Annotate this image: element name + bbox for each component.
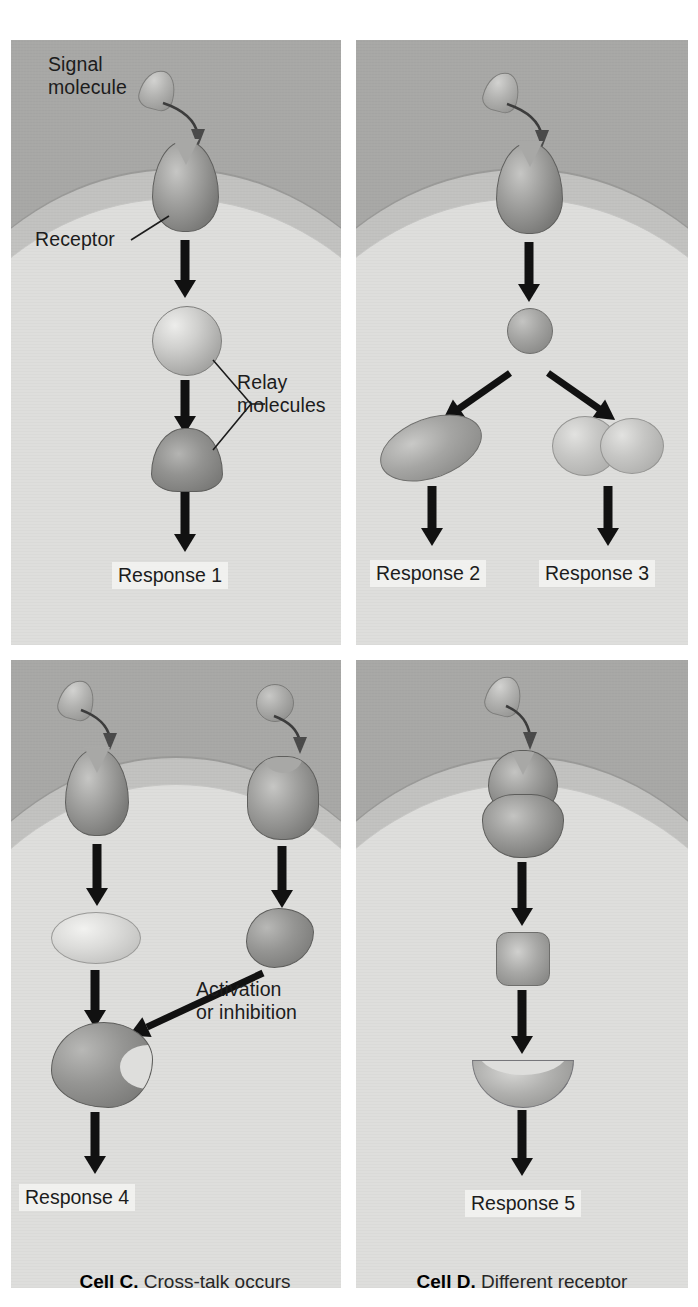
receptor-leader-line xyxy=(129,210,175,246)
panel-cell-c: Activation or inhibition Response 4 Cell… xyxy=(11,660,341,1288)
panel-a-caption: Cell A. Pathway leads to a single respon… xyxy=(35,616,317,645)
pathway-arrow-1 xyxy=(517,242,541,302)
panel-d-caption: Cell D. Different receptor leads to a di… xyxy=(364,1246,680,1288)
panel-cell-a: Signal molecule Receptor Relay molecules xyxy=(11,40,341,645)
receptor-hourglass-icon xyxy=(482,750,562,856)
panel-b-caption-bold: Cell B. xyxy=(409,641,468,646)
panel-a-caption-bold: Cell A. xyxy=(82,641,140,646)
crescent-inner-cut xyxy=(479,1060,567,1075)
response-label-3: Response 3 xyxy=(539,560,655,587)
label-relay-molecules: Relay molecules xyxy=(237,371,326,417)
panel-c-caption: Cell C. Cross-talk occurs between two pa… xyxy=(39,1246,331,1288)
relay-molecule-light-ellipse xyxy=(51,912,141,964)
response-label-1: Response 1 xyxy=(112,562,228,589)
pathway-arrow-3 xyxy=(510,1110,534,1176)
peanut-lobe-right xyxy=(600,418,664,474)
receptor-lower-lobe xyxy=(482,794,564,858)
receptor-right-icon xyxy=(247,756,319,840)
relay-molecule-kidney-bean xyxy=(51,1022,153,1108)
pathway-arrow-left xyxy=(420,486,444,546)
label-signal-molecule: Signal molecule xyxy=(48,53,127,99)
pathway-arrow-1 xyxy=(173,240,197,298)
response-label-2: Response 2 xyxy=(370,560,486,587)
panel-b-caption: Cell B. Pathway branches, leading to two… xyxy=(370,616,674,645)
response-label-4: Response 4 xyxy=(19,1184,135,1211)
panel-cell-b: Response 2 Response 3 Cell B. Pathway br… xyxy=(356,40,688,645)
pathway-arrow-2 xyxy=(510,990,534,1054)
pathway-arrow-left-1 xyxy=(85,844,109,906)
panel-cell-d: Response 5 Cell D. Different receptor le… xyxy=(356,660,688,1288)
panel-c-caption-bold: Cell C. xyxy=(79,1271,138,1289)
figure-grid: Signal molecule Receptor Relay molecules xyxy=(0,0,698,1307)
panel-d-caption-bold: Cell D. xyxy=(417,1271,476,1289)
bean-notch xyxy=(120,1045,153,1089)
pathway-arrow-3 xyxy=(173,492,197,552)
pathway-arrow-2 xyxy=(173,380,197,434)
receptor-u-notch xyxy=(264,756,302,773)
pathway-arrow-right xyxy=(596,486,620,546)
pathway-arrow-left-3 xyxy=(83,1112,107,1174)
pathway-arrow-1 xyxy=(510,862,534,926)
response-label-5: Response 5 xyxy=(465,1190,581,1217)
relay-molecule-small-sphere xyxy=(507,308,553,354)
pathway-arrow-left-2 xyxy=(83,970,107,1028)
label-activation-or-inhibition: Activation or inhibition xyxy=(196,978,297,1024)
relay-molecule-peanut xyxy=(552,416,664,474)
relay-molecule-square xyxy=(496,932,550,986)
label-receptor: Receptor xyxy=(35,228,115,251)
pathway-arrow-right-1 xyxy=(270,846,294,908)
